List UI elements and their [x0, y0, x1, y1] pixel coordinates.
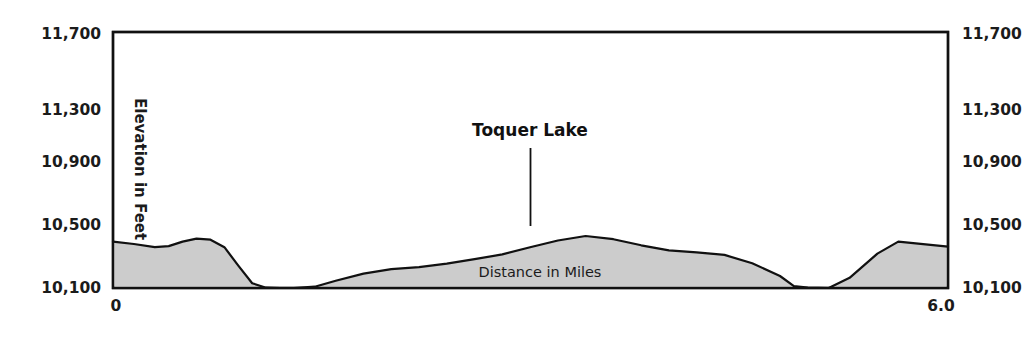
y-tick-right-11700: 11,700	[962, 25, 1022, 43]
y-tick-left-11700: 11,700	[41, 25, 101, 43]
y-tick-left-10900: 10,900	[41, 153, 101, 171]
chart-svg: Toquer Lake Distance in Miles Elevation …	[0, 0, 1030, 341]
toquer-lake-label: Toquer Lake	[472, 120, 588, 140]
y-tick-right-11300: 11,300	[962, 101, 1022, 119]
y-tick-left-11300: 11,300	[41, 101, 101, 119]
y-tick-left-10500: 10,500	[41, 216, 101, 234]
x-tick-0: 0	[111, 297, 122, 315]
x-tick-6: 6.0	[927, 297, 955, 315]
y-tick-right-10100: 10,100	[962, 279, 1022, 297]
elevation-axis-title: Elevation in Feet	[131, 98, 149, 240]
distance-axis-title: Distance in Miles	[479, 264, 602, 280]
y-tick-left-10100: 10,100	[41, 279, 101, 297]
elevation-profile-chart: Toquer Lake Distance in Miles Elevation …	[0, 0, 1030, 341]
y-tick-right-10500: 10,500	[962, 216, 1022, 234]
y-tick-right-10900: 10,900	[962, 153, 1022, 171]
